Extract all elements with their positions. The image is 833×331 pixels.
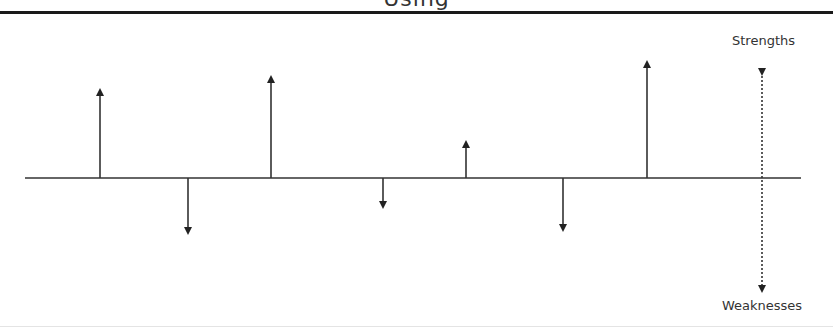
strengths-weaknesses-diagram xyxy=(0,0,833,331)
arrow-group xyxy=(100,64,647,231)
